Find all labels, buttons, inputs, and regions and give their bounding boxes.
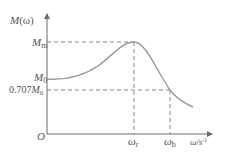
wr-label: ωr	[128, 135, 139, 149]
reference-lines	[47, 42, 170, 134]
magnitude-curve	[47, 42, 193, 107]
resonance-plot: M(ω) Mm M0 0.707M0 O ωr ωb ω/s-1	[0, 0, 233, 158]
m707-label: 0.707M0	[9, 84, 44, 97]
m0-label: M0	[33, 71, 47, 85]
y-axis-label: M(ω)	[9, 14, 34, 27]
mm-label: Mm	[31, 36, 48, 50]
wb-label: ωb	[164, 135, 176, 149]
x-axis-label: ω/s-1	[190, 137, 207, 147]
origin-label: O	[37, 130, 45, 142]
